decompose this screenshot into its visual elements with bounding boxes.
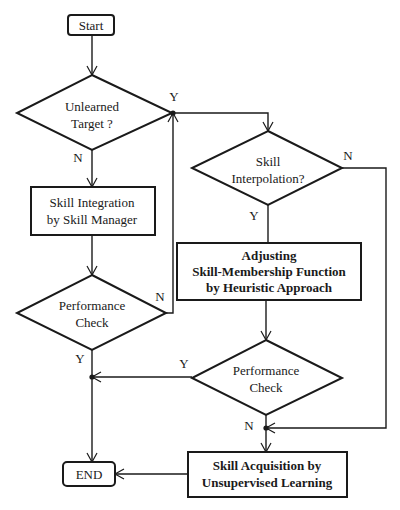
process-skill-acquisition: Skill Acquisition by Unsupervised Learni… bbox=[188, 452, 347, 497]
decision-unlearned-line1: Unlearned bbox=[65, 99, 120, 114]
perf1-yes-label: Y bbox=[75, 351, 85, 366]
perf2-yes-label: Y bbox=[179, 356, 189, 371]
adjust-line3: by Heuristic Approach bbox=[206, 280, 333, 295]
decision-performance-check-2: Performance Check Y N bbox=[179, 340, 342, 433]
process-adjusting-membership: Adjusting Skill-Membership Function by H… bbox=[177, 243, 361, 300]
decision-unlearned-target: Unlearned Target ? Y N bbox=[17, 75, 179, 165]
flowchart-canvas: Start Unlearned Target ? Y N Skill Integ… bbox=[0, 0, 400, 510]
interp-line1: Skill bbox=[256, 154, 281, 169]
interp-line2: Interpolation? bbox=[232, 171, 305, 186]
decision-unlearned-yes-label: Y bbox=[169, 89, 179, 104]
perf2-line2: Check bbox=[249, 380, 283, 395]
adjust-line2: Skill-Membership Function bbox=[192, 264, 346, 279]
perf1-line1: Performance bbox=[59, 298, 126, 313]
perf2-line1: Performance bbox=[233, 363, 300, 378]
perf1-no-label: N bbox=[155, 289, 165, 304]
interp-yes-label: Y bbox=[249, 208, 259, 223]
integration-line1: Skill Integration bbox=[50, 195, 135, 210]
perf2-no-label: N bbox=[244, 418, 254, 433]
interp-no-label: N bbox=[343, 148, 353, 163]
acquisition-line1: Skill Acquisition by bbox=[213, 458, 322, 473]
acquisition-line2: Unsupervised Learning bbox=[202, 475, 333, 490]
adjust-line1: Adjusting bbox=[242, 248, 297, 263]
integration-line2: by Skill Manager bbox=[47, 212, 138, 227]
end-terminal: END bbox=[63, 462, 115, 486]
start-terminal: Start bbox=[68, 15, 114, 35]
start-label: Start bbox=[79, 18, 104, 33]
decision-skill-interpolation: Skill Interpolation? N Y bbox=[192, 131, 353, 223]
perf1-line2: Check bbox=[75, 315, 109, 330]
decision-unlearned-line2: Target ? bbox=[71, 116, 113, 131]
decision-unlearned-no-label: N bbox=[73, 150, 83, 165]
end-label: END bbox=[76, 467, 103, 482]
process-skill-integration: Skill Integration by Skill Manager bbox=[31, 187, 155, 235]
